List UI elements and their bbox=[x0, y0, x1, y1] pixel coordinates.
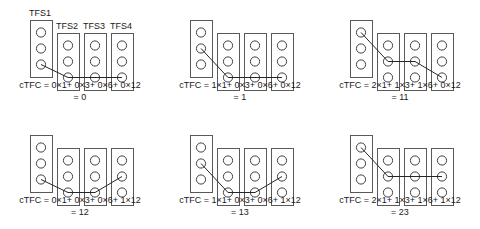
tfs-slot-circle bbox=[223, 156, 232, 165]
tfs-diagram bbox=[0, 115, 160, 199]
tfs-caption: cTFC = 0×1+ 0×3+ 0×6+ 0×12= 0 bbox=[0, 80, 160, 103]
tfs-connection-path bbox=[201, 49, 282, 78]
tfs-panel: TFS1TFS2TFS3TFS4cTFC = 0×1+ 0×3+ 0×6+ 0×… bbox=[0, 0, 160, 114]
tfs-caption: cTFC = 1×1+ 0×3+ 0×6+ 0×12= 1 bbox=[160, 80, 320, 103]
tfs-slot-circle bbox=[63, 41, 72, 50]
tfs-caption: cTFC = 0×1+ 0×3+ 0×6+ 1×12= 12 bbox=[0, 195, 160, 218]
tfs-slot-circle bbox=[223, 172, 232, 181]
tfs-column-label: TFS3 bbox=[83, 22, 105, 31]
tfs-slot-circle bbox=[196, 175, 205, 184]
tfs-column-label: TFS2 bbox=[56, 22, 78, 31]
tfs-formula: cTFC = 0×1+ 0×3+ 0×6+ 1×12 bbox=[19, 195, 141, 205]
tfs-slot-circle bbox=[90, 156, 99, 165]
tfs-slot-circle bbox=[63, 156, 72, 165]
tfs-formula: cTFC = 2×1+ 1×3+ 1×6+ 0×12 bbox=[339, 80, 461, 90]
tfs-panel: cTFC = 1×1+ 0×3+ 0×6+ 0×12= 1 bbox=[160, 0, 320, 114]
tfs-slot-circle bbox=[277, 41, 286, 50]
tfs-slot-circle bbox=[410, 41, 419, 50]
tfs-result: = 12 bbox=[0, 207, 160, 219]
tfs-panel: cTFC = 1×1+ 0×3+ 0×6+ 1×12= 13 bbox=[160, 115, 320, 229]
tfs-slot-circle bbox=[437, 41, 446, 50]
tfs-panel: cTFC = 2×1+ 1×3+ 1×6+ 1×12= 23 bbox=[320, 115, 480, 229]
tfs-formula: cTFC = 0×1+ 0×3+ 0×6+ 0×12 bbox=[19, 80, 141, 90]
tfs-slot-circle bbox=[63, 172, 72, 181]
tfs-slot-circle bbox=[356, 60, 365, 69]
tfs-slot-circle bbox=[356, 175, 365, 184]
tfs-slot-circle bbox=[196, 143, 205, 152]
tfs-slot-circle bbox=[117, 156, 126, 165]
tfs-column-label: TFS1 bbox=[29, 9, 51, 18]
tfs-slot-circle bbox=[356, 44, 365, 53]
tfs-result: = 0 bbox=[0, 92, 160, 104]
tfs-connection-path bbox=[361, 148, 442, 177]
tfs-slot-circle bbox=[63, 57, 72, 66]
tfs-caption: cTFC = 2×1+ 1×3+ 1×6+ 0×12= 11 bbox=[320, 80, 480, 103]
tfs-slot-circle bbox=[36, 28, 45, 37]
tfs-slot-circle bbox=[250, 57, 259, 66]
tfs-caption: cTFC = 1×1+ 0×3+ 0×6+ 1×12= 13 bbox=[160, 195, 320, 218]
tfs-connection-path bbox=[361, 33, 442, 78]
tfs-diagram bbox=[160, 115, 320, 199]
tfs-diagram bbox=[320, 0, 480, 84]
tfs-slot-circle bbox=[250, 156, 259, 165]
tfs-connection-path bbox=[201, 164, 282, 193]
tfs-diagram bbox=[160, 0, 320, 84]
tfs-connection-path bbox=[41, 177, 122, 193]
tfs-slot-circle bbox=[250, 41, 259, 50]
tfs-diagram bbox=[320, 115, 480, 199]
tfs-column-label: TFS4 bbox=[110, 22, 132, 31]
tfs-slot-circle bbox=[36, 143, 45, 152]
tfs-result: = 13 bbox=[160, 207, 320, 219]
tfs-caption: cTFC = 2×1+ 1×3+ 1×6+ 1×12= 23 bbox=[320, 195, 480, 218]
tfs-slot-circle bbox=[383, 156, 392, 165]
tfs-slot-circle bbox=[250, 172, 259, 181]
tfs-connection-path bbox=[41, 65, 122, 78]
tfs-slot-circle bbox=[277, 156, 286, 165]
tfs-slot-circle bbox=[277, 57, 286, 66]
tfs-formula: cTFC = 1×1+ 0×3+ 0×6+ 0×12 bbox=[179, 80, 301, 90]
tfs-result: = 1 bbox=[160, 92, 320, 104]
tfs-slot-circle bbox=[36, 44, 45, 53]
tfs-formula: cTFC = 2×1+ 1×3+ 1×6+ 1×12 bbox=[339, 195, 461, 205]
tfs-slot-circle bbox=[117, 41, 126, 50]
tfs-slot-circle bbox=[410, 156, 419, 165]
tfs-slot-circle bbox=[196, 28, 205, 37]
tfs-slot-circle bbox=[36, 159, 45, 168]
tfs-figure: TFS1TFS2TFS3TFS4cTFC = 0×1+ 0×3+ 0×6+ 0×… bbox=[0, 0, 480, 229]
tfs-slot-circle bbox=[117, 57, 126, 66]
tfs-slot-circle bbox=[196, 60, 205, 69]
tfs-diagram: TFS1TFS2TFS3TFS4 bbox=[0, 0, 160, 84]
tfs-panel: cTFC = 0×1+ 0×3+ 0×6+ 1×12= 12 bbox=[0, 115, 160, 229]
tfs-slot-circle bbox=[90, 57, 99, 66]
tfs-slot-circle bbox=[223, 41, 232, 50]
tfs-result: = 23 bbox=[320, 207, 480, 219]
tfs-slot-circle bbox=[90, 41, 99, 50]
tfs-slot-circle bbox=[356, 159, 365, 168]
tfs-slot-circle bbox=[90, 172, 99, 181]
tfs-formula: cTFC = 1×1+ 0×3+ 0×6+ 1×12 bbox=[179, 195, 301, 205]
tfs-panel: cTFC = 2×1+ 1×3+ 1×6+ 0×12= 11 bbox=[320, 0, 480, 114]
tfs-slot-circle bbox=[437, 57, 446, 66]
tfs-slot-circle bbox=[383, 41, 392, 50]
tfs-slot-circle bbox=[437, 156, 446, 165]
tfs-slot-circle bbox=[223, 57, 232, 66]
tfs-result: = 11 bbox=[320, 92, 480, 104]
